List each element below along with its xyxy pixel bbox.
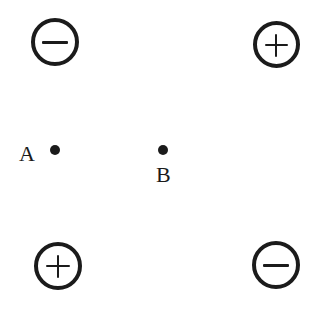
plus-sign-vertical-glyph [57,255,59,278]
point-b-dot[interactable] [158,145,168,155]
point-a-label: A [19,143,35,165]
point-b-label: B [156,164,171,186]
plus-sign-vertical-glyph [275,34,277,57]
physics-figure-canvas: A B [0,0,330,314]
minus-sign-glyph [42,41,68,44]
charge-bottom-right[interactable] [252,241,300,289]
point-a-dot[interactable] [50,145,60,155]
minus-sign-glyph [263,264,289,267]
charge-bottom-left[interactable] [34,242,82,290]
charge-top-left[interactable] [31,18,79,66]
charge-top-right[interactable] [253,21,300,68]
